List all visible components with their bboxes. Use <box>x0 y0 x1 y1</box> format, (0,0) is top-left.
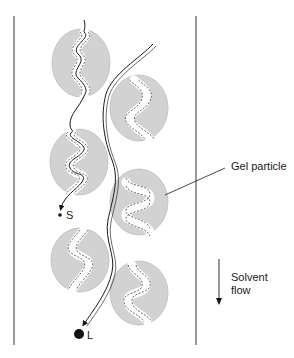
gel-particle-2 <box>110 75 168 141</box>
gel-filtration-diagram: Gel particle Solvent flow S L <box>0 0 294 358</box>
solvent-flow-label-line1: Solvent <box>231 271 268 283</box>
large-molecule-dot <box>74 329 84 339</box>
large-molecule-label: L <box>87 329 93 341</box>
solvent-flow-arrowhead-icon <box>216 298 222 305</box>
solvent-flow-label-line2: flow <box>231 284 251 296</box>
gel-particle-5 <box>51 228 109 292</box>
gel-particle-1 <box>52 29 110 97</box>
gel-particle-6 <box>110 261 168 325</box>
diagram-canvas <box>0 0 294 358</box>
small-molecule-label: S <box>66 209 73 221</box>
small-molecule-dot <box>58 213 62 217</box>
gel-particle-label: Gel particle <box>231 160 287 172</box>
gel-particle-leader-line <box>165 168 225 195</box>
